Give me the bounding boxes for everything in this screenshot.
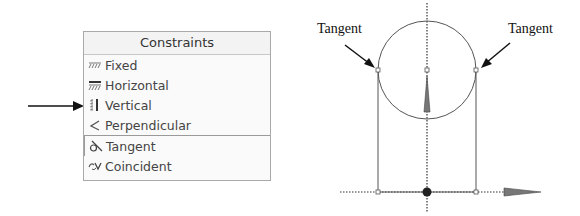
- tangent-label-left: Tangent: [317, 21, 362, 37]
- origin-point: [423, 188, 432, 197]
- pointer-arrow-icon: [28, 98, 84, 114]
- fixed-icon: [87, 58, 103, 72]
- tangent-label-right: Tangent: [508, 21, 553, 37]
- constraint-label: Perpendicular: [105, 118, 191, 133]
- constraint-item-perpendicular[interactable]: Perpendicular: [84, 115, 270, 135]
- circle-center-point[interactable]: [425, 68, 429, 72]
- constraint-label: Tangent: [106, 139, 156, 154]
- constraint-item-fixed[interactable]: Fixed: [84, 55, 270, 75]
- left-tangent-point[interactable]: [376, 68, 380, 72]
- constraint-label: Horizontal: [105, 78, 169, 93]
- right-tangent-point[interactable]: [474, 68, 478, 72]
- y-direction-arrow-icon: [424, 76, 430, 112]
- constraints-panel: Constraints Fixed Horizontal Vertical Pe…: [83, 31, 271, 181]
- right-callout-arrow: [486, 43, 510, 63]
- constraint-label: Coincident: [105, 159, 172, 174]
- constraint-label: Fixed: [105, 58, 137, 73]
- bottom-left-point[interactable]: [376, 190, 380, 194]
- x-direction-arrow-icon: [504, 188, 541, 196]
- left-callout-arrowhead-icon: [364, 58, 375, 68]
- tangent-icon: [88, 139, 104, 153]
- perpendicular-icon: [87, 118, 103, 132]
- horizontal-icon: [87, 78, 103, 92]
- constraint-item-tangent[interactable]: Tangent: [84, 135, 270, 156]
- constraint-item-horizontal[interactable]: Horizontal: [84, 75, 270, 95]
- sketch-diagram: Tangent Tangent: [300, 0, 580, 216]
- constraint-item-coincident[interactable]: Coincident: [84, 156, 270, 176]
- left-callout-arrow: [345, 45, 370, 64]
- constraint-item-vertical[interactable]: Vertical: [84, 95, 270, 115]
- constraint-label: Vertical: [105, 98, 152, 113]
- bottom-right-point[interactable]: [474, 190, 478, 194]
- coincident-icon: [87, 159, 103, 173]
- panel-title: Constraints: [84, 32, 270, 55]
- vertical-icon: [87, 98, 103, 112]
